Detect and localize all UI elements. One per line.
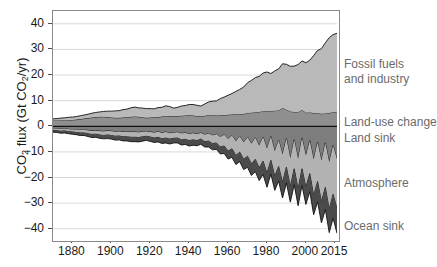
area-band-fossil_fuels xyxy=(53,33,337,120)
legend-label-land_use_change: Land-use change xyxy=(344,115,437,129)
legend-label-land_sink: Land sink xyxy=(344,131,395,145)
x-tick-label: 1980 xyxy=(244,245,288,257)
x-tick-label: 2015 xyxy=(312,245,356,257)
x-tick-label: 1900 xyxy=(88,245,132,257)
legend-label-atmosphere: Atmosphere xyxy=(344,176,409,190)
legend-label-ocean_sink: Ocean sink xyxy=(344,219,404,233)
x-tick-label: 1940 xyxy=(166,245,210,257)
legend-label-fossil_fuels_2: and industry xyxy=(344,72,409,86)
stacked-area-svg xyxy=(53,11,337,239)
plot-area xyxy=(52,10,340,242)
x-tick-label: 1880 xyxy=(49,245,93,257)
legend-label-fossil_fuels: Fossil fuels xyxy=(344,57,404,71)
x-tick-label: 1920 xyxy=(127,245,171,257)
x-tick-label: 1960 xyxy=(205,245,249,257)
